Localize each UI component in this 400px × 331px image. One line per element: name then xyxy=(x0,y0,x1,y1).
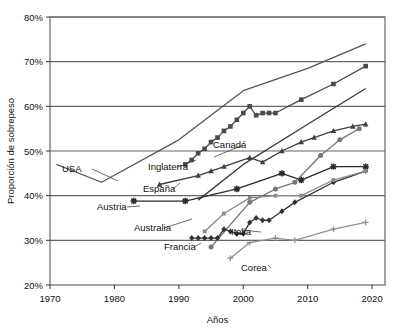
x-tick-label: 2010 xyxy=(297,293,318,304)
data-point-marker xyxy=(266,217,271,223)
data-point-marker xyxy=(235,117,240,122)
data-point-marker xyxy=(203,230,207,234)
data-point-marker xyxy=(332,178,336,182)
data-point-marker xyxy=(363,219,369,225)
series-espaa xyxy=(157,121,369,187)
data-point-marker xyxy=(279,208,284,214)
data-point-marker xyxy=(222,129,227,134)
series-label: Corea xyxy=(241,262,268,273)
y-tick-label: 50% xyxy=(24,146,44,157)
x-tick-label: 1980 xyxy=(104,293,125,304)
overweight-proportion-chart: 20%30%40%50%60%70%80% 197019801990200020… xyxy=(0,0,400,331)
data-point-marker xyxy=(202,146,207,151)
data-point-marker xyxy=(196,151,201,156)
data-point-marker xyxy=(273,186,278,191)
data-point-marker xyxy=(279,170,285,176)
data-point-marker xyxy=(254,215,259,221)
data-point-marker xyxy=(363,121,369,126)
data-point-marker xyxy=(241,111,246,116)
series-label: Inglaterra xyxy=(148,161,189,172)
y-tick-label: 30% xyxy=(24,235,44,246)
data-point-marker xyxy=(247,104,252,109)
label-leader-line xyxy=(127,206,140,207)
data-point-marker xyxy=(228,124,233,129)
series-label: Canadá xyxy=(213,139,247,150)
data-point-marker xyxy=(182,198,188,204)
data-point-marker xyxy=(330,226,336,232)
y-axis-title: Proporción de sobrepeso xyxy=(5,98,16,204)
data-point-marker xyxy=(357,126,362,131)
data-point-marker xyxy=(209,245,214,250)
data-point-marker xyxy=(299,97,304,102)
data-point-marker xyxy=(331,82,336,87)
series-label: España xyxy=(143,183,176,194)
series-line xyxy=(160,124,366,184)
data-point-marker xyxy=(292,180,297,185)
data-point-marker xyxy=(267,111,272,116)
series-label: Austria xyxy=(97,201,127,212)
data-point-marker xyxy=(292,199,297,205)
data-point-marker xyxy=(260,217,265,223)
label-leader-line xyxy=(268,265,271,268)
series-label: Australia xyxy=(134,222,172,233)
y-tick-label: 20% xyxy=(24,280,44,291)
series-layer xyxy=(56,44,368,261)
data-point-marker xyxy=(299,194,303,198)
x-axis-tick-labels: 197019801990200020102020 xyxy=(39,293,382,304)
series-line xyxy=(56,44,365,182)
x-axis-title: Años xyxy=(207,314,229,325)
chart-canvas: 20%30%40%50%60%70%80% 197019801990200020… xyxy=(0,0,400,331)
data-point-marker xyxy=(260,111,265,116)
y-axis-tick-labels: 20%30%40%50%60%70%80% xyxy=(24,12,44,291)
x-tick-label: 2000 xyxy=(233,293,254,304)
data-point-marker xyxy=(247,200,252,205)
x-tick-label: 1970 xyxy=(39,293,60,304)
series-label: Italia xyxy=(231,226,252,237)
series-francia xyxy=(189,168,368,241)
data-point-marker xyxy=(292,237,298,243)
series-usa xyxy=(56,44,365,182)
data-point-marker xyxy=(337,137,342,142)
series-inline-labels: USAInglaterraCanadáEspañaAustriaAustrali… xyxy=(62,139,271,273)
data-point-marker xyxy=(248,196,252,200)
data-point-marker xyxy=(234,186,240,192)
data-point-marker xyxy=(364,169,368,173)
data-point-marker xyxy=(247,155,253,160)
series-label: USA xyxy=(62,163,82,174)
data-point-marker xyxy=(131,198,137,204)
y-tick-label: 70% xyxy=(24,56,44,67)
data-point-marker xyxy=(318,153,323,158)
data-point-marker xyxy=(222,212,226,216)
data-point-marker xyxy=(274,194,278,198)
x-tick-label: 1990 xyxy=(168,293,189,304)
y-tick-label: 80% xyxy=(24,12,44,23)
data-point-marker xyxy=(363,64,368,69)
x-tick-label: 2020 xyxy=(362,293,383,304)
data-point-marker xyxy=(254,113,259,118)
y-tick-label: 40% xyxy=(24,190,44,201)
data-point-marker xyxy=(330,163,336,169)
y-tick-label: 60% xyxy=(24,101,44,112)
data-point-marker xyxy=(273,111,278,116)
series-label: Francia xyxy=(164,241,196,252)
